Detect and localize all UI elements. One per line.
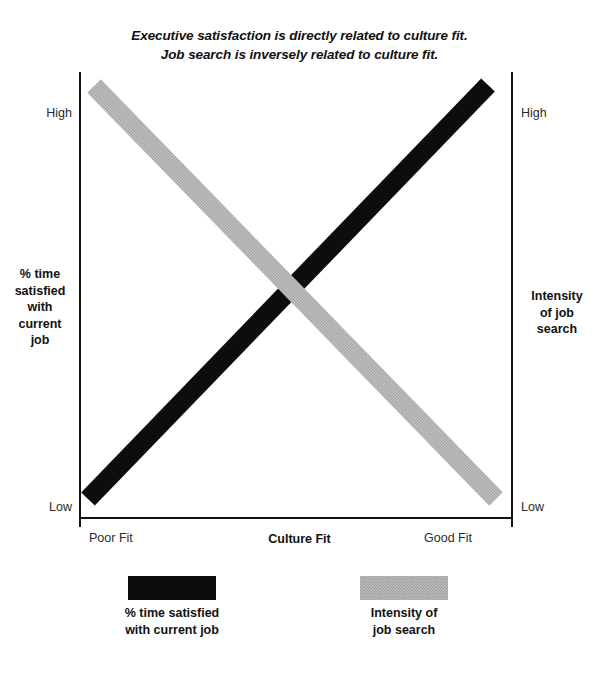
legend-label-job-search: Intensity of job search <box>320 605 488 639</box>
left-axis-title-line-3: with <box>4 299 76 316</box>
right-axis-high-label: High <box>521 106 547 120</box>
legend-swatch-job-search <box>360 576 448 600</box>
left-axis-title-line-2: satisfied <box>4 283 76 300</box>
left-axis-title-line-5: job <box>4 332 76 349</box>
x-axis-label-poor-fit: Poor Fit <box>89 531 133 545</box>
left-axis-title: % time satisfied with current job <box>4 266 76 349</box>
left-axis-low-label: Low <box>49 500 72 514</box>
legend-label-job-search-line-1: Intensity of <box>320 605 488 622</box>
legend-label-satisfaction-line-2: with current job <box>88 622 256 639</box>
chart-legend: % time satisfied with current job Intens… <box>0 576 599 656</box>
left-axis-high-label: High <box>46 106 72 120</box>
x-axis-label-good-fit: Good Fit <box>424 531 472 545</box>
right-axis-title-line-3: search <box>519 321 595 338</box>
left-axis-title-line-4: current <box>4 316 76 333</box>
right-axis-title-line-1: Intensity <box>519 288 595 305</box>
legend-label-satisfaction-line-1: % time satisfied <box>88 605 256 622</box>
legend-swatch-satisfaction <box>128 576 216 600</box>
chart-plot-area <box>0 0 599 673</box>
legend-label-satisfaction: % time satisfied with current job <box>88 605 256 639</box>
left-axis-title-line-1: % time <box>4 266 76 283</box>
legend-label-job-search-line-2: job search <box>320 622 488 639</box>
chart-figure: Executive satisfaction is directly relat… <box>0 0 599 673</box>
right-axis-title-line-2: of job <box>519 305 595 322</box>
right-axis-title: Intensity of job search <box>519 288 595 338</box>
legend-item-job-search: Intensity of job search <box>320 576 488 639</box>
legend-item-satisfaction: % time satisfied with current job <box>88 576 256 639</box>
right-axis-low-label: Low <box>521 500 544 514</box>
